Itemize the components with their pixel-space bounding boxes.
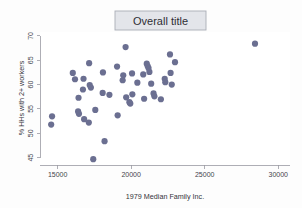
data-point [167, 70, 173, 76]
data-point [48, 121, 54, 127]
data-point [100, 69, 106, 75]
data-point [151, 93, 157, 99]
data-point [252, 41, 258, 47]
data-point [146, 69, 152, 75]
data-point [167, 51, 173, 57]
data-point [80, 86, 86, 92]
y-tick-label: 65 [27, 56, 34, 64]
data-point [76, 111, 82, 117]
y-axis-ticks: 455055606570 [27, 32, 40, 162]
data-point [120, 77, 126, 83]
data-point [100, 90, 106, 96]
data-point [90, 156, 96, 162]
data-point [88, 84, 94, 90]
data-point [114, 63, 120, 69]
data-point [101, 138, 107, 144]
y-axis-title: % HHs with 2+ workers [17, 60, 26, 135]
data-point [86, 60, 92, 66]
data-point [70, 70, 76, 76]
data-point [72, 76, 78, 82]
y-tick-label: 60 [27, 81, 34, 89]
chart-figure: 15000200002500030000 455055606570 1979 M… [0, 0, 302, 208]
data-point [134, 80, 140, 86]
data-point [115, 112, 121, 118]
data-point [92, 107, 98, 113]
chart-title: Overall title [133, 15, 188, 27]
y-tick-label: 45 [27, 154, 34, 162]
data-point [127, 101, 133, 107]
x-tick-label: 25000 [195, 171, 215, 178]
data-point [148, 81, 154, 87]
data-point [49, 113, 55, 119]
data-point [140, 71, 146, 77]
data-point [106, 92, 112, 98]
y-tick-label: 50 [27, 129, 34, 137]
y-tick-label: 70 [27, 32, 34, 40]
data-point [75, 95, 81, 101]
data-point [86, 120, 92, 126]
data-point [141, 96, 147, 102]
data-point [129, 91, 135, 97]
data-point [162, 79, 168, 85]
x-tick-label: 15000 [48, 171, 68, 178]
x-axis-ticks: 15000200002500030000 [48, 165, 288, 178]
scatter-plot: 15000200002500030000 455055606570 1979 M… [0, 0, 302, 208]
x-tick-label: 20000 [121, 171, 141, 178]
data-point [122, 44, 128, 50]
data-point [158, 96, 164, 102]
data-point [129, 70, 135, 76]
x-axis-title: 1979 Median Family Inc. [126, 192, 204, 201]
data-point [169, 82, 175, 88]
y-tick-label: 55 [27, 105, 34, 113]
data-point [172, 59, 178, 65]
x-tick-label: 30000 [269, 171, 289, 178]
data-point [80, 76, 86, 82]
